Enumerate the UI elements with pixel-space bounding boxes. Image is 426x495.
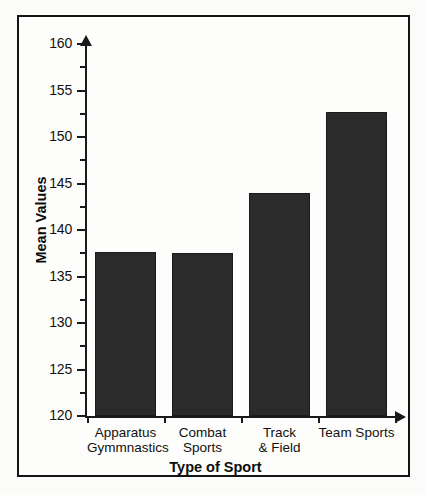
y-tick-major xyxy=(77,369,86,371)
y-tick-label: 120 xyxy=(32,407,72,423)
y-tick-minor xyxy=(80,206,86,208)
y-tick-minor xyxy=(80,392,86,394)
x-category-label-line: & Field xyxy=(241,440,318,455)
y-tick-major xyxy=(77,90,86,92)
y-tick-major xyxy=(77,276,86,278)
y-tick-label: 130 xyxy=(32,314,72,330)
y-tick-label: 155 xyxy=(32,82,72,98)
y-tick-major xyxy=(77,183,86,185)
y-tick-label: 160 xyxy=(32,35,72,51)
x-category-label-line: Sports xyxy=(164,440,241,455)
plot-area: 120125130135140145150155160 ApparatusGym… xyxy=(19,17,412,479)
x-category-label: CombatSports xyxy=(164,425,241,455)
x-tick xyxy=(318,416,320,423)
figure-border: 120125130135140145150155160 ApparatusGym… xyxy=(17,15,410,477)
y-tick-label: 125 xyxy=(32,361,72,377)
x-category-label-line: Combat xyxy=(164,425,241,440)
y-tick-minor xyxy=(80,159,86,161)
y-tick-minor xyxy=(80,299,86,301)
x-tick xyxy=(395,416,397,423)
bar xyxy=(249,193,311,416)
y-tick-major xyxy=(77,322,86,324)
y-tick-minor xyxy=(80,113,86,115)
y-axis-title: Mean Values xyxy=(33,150,49,290)
bar xyxy=(95,252,157,416)
x-tick xyxy=(164,416,166,423)
y-tick-major xyxy=(77,229,86,231)
bar xyxy=(172,253,234,416)
bar xyxy=(326,112,388,416)
x-category-label: Track& Field xyxy=(241,425,318,455)
y-tick-minor xyxy=(80,66,86,68)
y-tick-minor xyxy=(80,345,86,347)
x-category-label: ApparatusGymmnastics xyxy=(87,425,164,455)
y-tick-major xyxy=(77,415,86,417)
x-category-label: Team Sports xyxy=(318,425,395,440)
y-tick-label: 150 xyxy=(32,128,72,144)
x-tick xyxy=(87,416,89,423)
x-category-label-line: Track xyxy=(241,425,318,440)
figure-container: 120125130135140145150155160 ApparatusGym… xyxy=(0,0,426,495)
x-category-label-line: Apparatus xyxy=(87,425,164,440)
y-tick-major xyxy=(77,136,86,138)
x-category-label-line: Team Sports xyxy=(318,425,395,440)
y-tick-minor xyxy=(80,252,86,254)
x-category-label-line: Gymmnastics xyxy=(87,440,164,455)
x-axis-title: Type of Sport xyxy=(19,459,412,475)
x-tick xyxy=(241,416,243,423)
y-tick-major xyxy=(77,43,86,45)
